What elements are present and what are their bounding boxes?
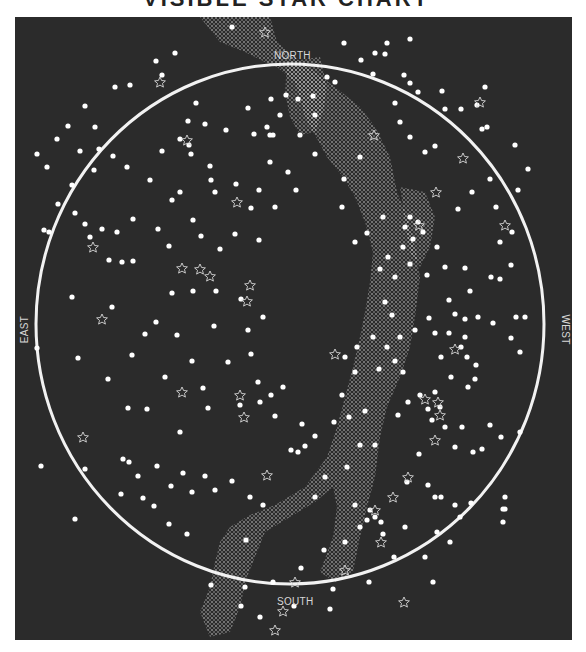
north-label: NORTH (274, 50, 311, 61)
milky-way (200, 17, 435, 637)
chart-title-text: VISIBLE STAR CHART (143, 0, 430, 10)
sky-chart-panel: NORTH SOUTH EAST WEST (15, 17, 572, 640)
west-label: WEST (560, 314, 571, 344)
east-label: EAST (19, 316, 30, 343)
chart-title: VISIBLE STAR CHART (0, 0, 586, 10)
south-label: SOUTH (277, 596, 314, 607)
star-field (34, 24, 530, 619)
sky-map (15, 17, 572, 640)
